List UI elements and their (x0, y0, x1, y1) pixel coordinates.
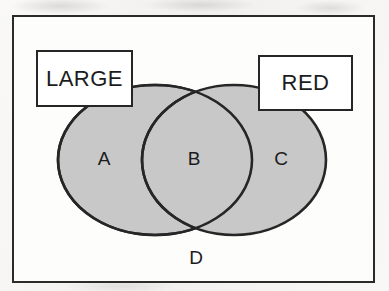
region-label-b: B (181, 149, 207, 168)
region-label-a: A (91, 149, 117, 168)
set-label-large: LARGE (36, 50, 133, 107)
set-label-red-text: RED (282, 72, 330, 94)
set-label-red: RED (258, 55, 353, 111)
set-label-large-text: LARGE (46, 68, 123, 90)
region-label-c: C (268, 149, 294, 168)
figure-page: LARGE RED A B C D (0, 0, 389, 291)
region-label-d: D (183, 248, 209, 267)
